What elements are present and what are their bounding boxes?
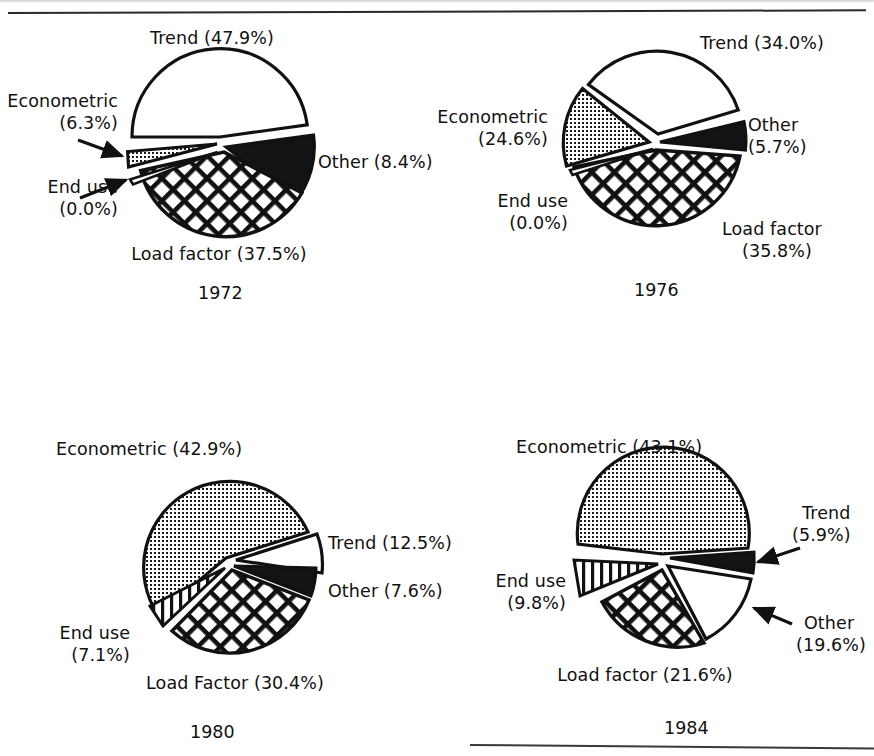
label-econometric-1984: Econometric (43.1%) xyxy=(516,436,702,458)
leader-econometric-1972 xyxy=(78,140,122,156)
label-load-factor-1972: Load factor (37.5%) xyxy=(104,243,334,265)
label-trend-1984: Trend xyxy=(802,502,850,524)
panel-year-1980: 1980 xyxy=(190,722,235,742)
label-end-use-1984: End use xyxy=(436,570,566,592)
figure-page: Trend (47.9%) Econometric (6.3%) End use… xyxy=(0,0,874,756)
label-econometric-1972: Econometric xyxy=(0,90,118,112)
pie-panel-1976: Trend (34.0%) Econometric (24.6%) Other … xyxy=(490,22,874,318)
label-end-use-1972: End use xyxy=(0,176,118,198)
pie-panel-1984: Econometric (43.1%) Trend (5.9%) Other (… xyxy=(492,440,874,750)
label-load-factor-value-1976: (35.8%) xyxy=(742,240,812,262)
label-trend-1972: Trend (47.9%) xyxy=(112,27,312,49)
label-trend-1980: Trend (12.5%) xyxy=(328,532,452,554)
pie-panel-1980: Econometric (42.9%) Trend (12.5%) Other … xyxy=(62,440,444,750)
pie-panel-1972: Trend (47.9%) Econometric (6.3%) End use… xyxy=(60,28,440,318)
leader-other-1984 xyxy=(754,608,792,624)
label-econometric-1976: Econometric xyxy=(426,106,548,128)
label-end-use-value-1980: (7.1%) xyxy=(0,644,130,666)
label-end-use-value-1972: (0.0%) xyxy=(0,198,118,220)
label-other-1972: Other (8.4%) xyxy=(318,151,433,173)
label-econometric-value-1972: (6.3%) xyxy=(0,112,118,134)
label-other-value-1976: (5.7%) xyxy=(748,136,838,158)
label-econometric-value-1976: (24.6%) xyxy=(426,128,548,150)
label-other-value-1984: (19.6%) xyxy=(796,634,866,656)
label-end-use-value-1984: (9.8%) xyxy=(436,592,566,614)
slice-trend-1972[interactable] xyxy=(132,49,307,137)
label-load-factor-1980: Load Factor (30.4%) xyxy=(110,672,360,694)
label-other-1976: Other xyxy=(748,114,838,136)
cropped-title-remnant xyxy=(0,0,874,3)
label-end-use-1980: End use xyxy=(0,622,130,644)
label-end-use-1976: End use xyxy=(450,190,568,212)
pie-chart-1976 xyxy=(490,22,874,318)
label-load-factor-1976: Load factor xyxy=(722,218,822,240)
panel-year-1984: 1984 xyxy=(664,718,709,738)
label-trend-value-1984: (5.9%) xyxy=(792,524,851,546)
slice-econometric-1984[interactable] xyxy=(577,447,749,554)
top-horizontal-rule xyxy=(8,9,866,14)
leader-trend-1984 xyxy=(758,548,800,562)
label-other-1984: Other xyxy=(804,612,854,634)
label-econometric-1980: Econometric (42.9%) xyxy=(56,438,242,460)
panel-year-1972: 1972 xyxy=(198,283,243,303)
label-trend-1976: Trend (34.0%) xyxy=(700,32,824,54)
pie-chart-1972 xyxy=(60,28,440,318)
label-other-1980: Other (7.6%) xyxy=(328,580,443,602)
label-load-factor-1984: Load factor (21.6%) xyxy=(520,664,770,686)
panel-year-1976: 1976 xyxy=(634,280,679,300)
label-end-use-value-1976: (0.0%) xyxy=(450,212,568,234)
